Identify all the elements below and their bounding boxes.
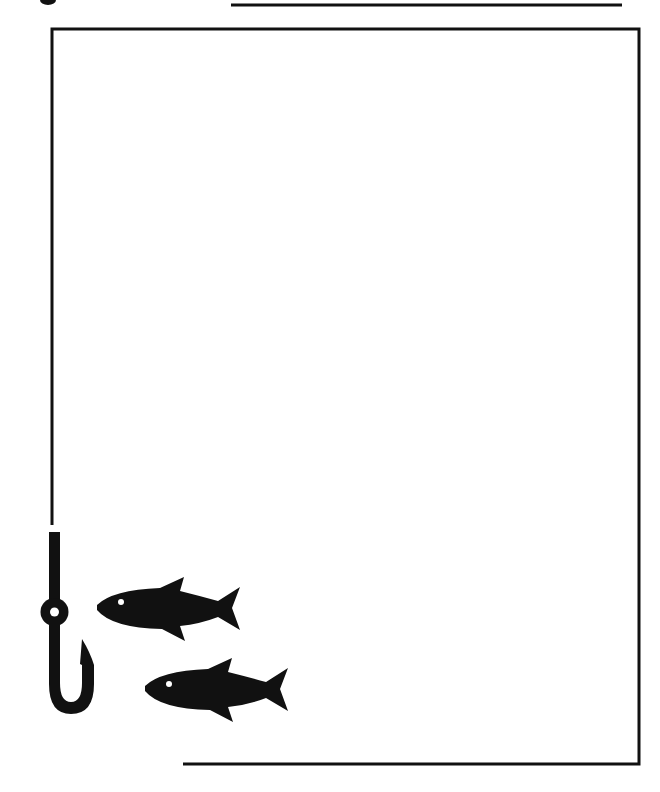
partial-dot-icon (40, 0, 56, 5)
decorative-border (0, 0, 660, 792)
fish-icon (145, 658, 288, 722)
fishing-hook-icon (41, 532, 95, 714)
frame-border (52, 29, 639, 764)
fish-icon (97, 577, 240, 641)
